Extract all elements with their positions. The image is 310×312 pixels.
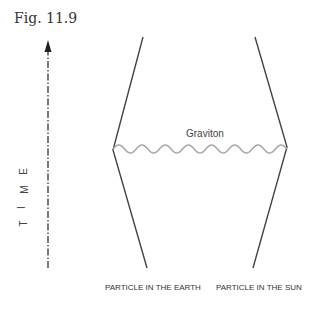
earth-particle-label: PARTICLE IN THE EARTH xyxy=(105,283,201,292)
time-letter: T xyxy=(18,220,29,226)
time-axis-arrowhead xyxy=(45,40,52,52)
time-letter: I xyxy=(16,206,27,209)
time-axis-label: T I M E xyxy=(14,150,58,230)
time-letter: E xyxy=(18,168,29,175)
graviton-wave xyxy=(113,145,287,153)
graviton-label: Graviton xyxy=(186,128,224,139)
sun-particle-label: PARTICLE IN THE SUN xyxy=(216,283,302,292)
time-letter: M xyxy=(19,185,30,193)
